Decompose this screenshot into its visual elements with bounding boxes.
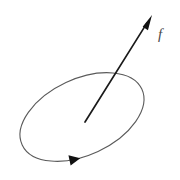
normal-vector-line [85,23,147,122]
circulation-loop [6,55,158,180]
circulation-direction-arrowhead [68,155,80,165]
diagram-canvas: f [0,0,180,180]
diagram-svg [0,0,180,180]
vector-label: f [158,27,162,42]
